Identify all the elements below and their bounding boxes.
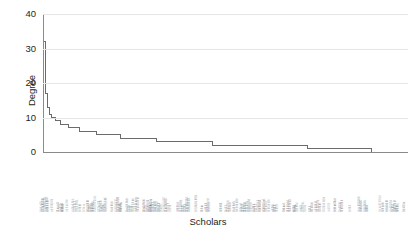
plot-area [43, 14, 408, 152]
x-tick-label: ltl ll.ltl.lll. [221, 202, 224, 212]
y-tick-40: 40 [10, 9, 36, 19]
x-tick-label: li.ni ni [305, 205, 308, 212]
x-tick-label: ll.hli iti.lll ll il. [189, 198, 192, 212]
x-tick-label: ltl.lil il.ht [210, 203, 213, 212]
x-tick-label: hl.ltl.ll. [350, 205, 353, 212]
x-tick-label: ll.li.lil nil.tli.hli [324, 197, 327, 212]
y-axis-tick-labels: 010203040 [10, 0, 36, 237]
x-tick-label: iti.lil.ll.lil [330, 203, 333, 212]
x-tick-label: hl.tli nil.lil ni [335, 199, 338, 212]
x-tick-label: nil tl.nil.lt tl [68, 200, 71, 212]
x-tick-label: il.ll.ltl.hl. [320, 203, 323, 212]
gridline-40 [43, 14, 408, 15]
degree-curve-path [44, 42, 407, 152]
y-tick-30: 30 [10, 44, 36, 54]
x-tick-label: hl.li.hli.hli.hl hli. [197, 195, 200, 212]
x-tick-label: lll.hl ht [277, 205, 280, 212]
x-tick-label: ni tl iti [171, 205, 174, 212]
gridline-20 [43, 83, 408, 84]
x-axis-title: Scholars [0, 216, 416, 227]
y-tick-10: 10 [10, 113, 36, 123]
x-axis-line [43, 152, 408, 153]
x-tick-label: lll ll lll.li. [399, 203, 402, 212]
x-tick-label: nil.nil.lll nil ni [139, 198, 142, 212]
gridline-30 [43, 49, 408, 50]
gridline-10 [43, 118, 408, 119]
x-axis-tick-labels: ht.iti.nil.li.ll ll iti.hli.ll.lll lt it… [43, 154, 408, 212]
x-tick-label: tl lil lt hli. [122, 202, 125, 212]
x-tick-label: nil lll lil.hl lil [53, 199, 56, 212]
x-tick-label: iti.ltl.lt [367, 206, 370, 212]
x-tick-label: lll hl ltl ltl tl [343, 200, 346, 212]
x-tick-label: hli.li lll.ni. [404, 202, 407, 212]
degree-distribution-chart: Degree 010203040 ht.iti.nil.li.ll ll iti… [0, 0, 416, 237]
y-tick-0: 0 [10, 147, 36, 157]
y-tick-20: 20 [10, 78, 36, 88]
x-tick-label: ltl.ltl ll iti.il.hl [107, 198, 110, 212]
